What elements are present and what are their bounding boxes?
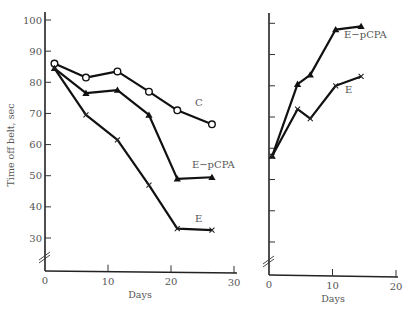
- series-label-e: E: [345, 84, 352, 95]
- series-label-epcpa: E−pCPA: [192, 159, 236, 170]
- y-tick-label: 90: [29, 46, 42, 57]
- data-point-c: [146, 88, 153, 95]
- x-tick-label: 10: [102, 276, 115, 287]
- data-point-c: [83, 74, 90, 81]
- y-axis-label: Time off belt, sec: [5, 104, 16, 187]
- data-point-c: [114, 68, 121, 75]
- x-axis: [269, 275, 398, 277]
- x-tick-label: 20: [390, 281, 403, 292]
- series-line-c: [54, 64, 212, 125]
- data-point-c: [209, 121, 216, 128]
- left-panel: 304050607080901000102030DaysTime off bel…: [5, 12, 240, 300]
- figure: 304050607080901000102030DaysTime off bel…: [0, 0, 409, 313]
- series-line-e: [54, 68, 212, 230]
- x-tick-label: 0: [266, 279, 272, 290]
- x-axis: [45, 271, 237, 273]
- y-tick-label: 40: [29, 201, 42, 212]
- series-label-epcpa: E−pCPA: [344, 29, 388, 40]
- x-tick-label: 20: [165, 276, 178, 287]
- x-tick-label: 0: [42, 275, 48, 286]
- right-panel: 01020DaysE−pCPAE: [263, 13, 402, 304]
- series-label-c: C: [195, 97, 203, 108]
- series-label-e: E: [195, 213, 202, 224]
- y-tick-label: 30: [29, 233, 42, 244]
- x-axis-label: Days: [321, 293, 345, 304]
- data-point-c: [174, 107, 181, 114]
- x-tick-label: 30: [228, 277, 241, 288]
- y-tick-label: 50: [29, 170, 42, 181]
- y-tick-label: 80: [29, 77, 42, 88]
- x-axis-label: Days: [128, 289, 152, 300]
- y-tick-label: 100: [23, 15, 42, 26]
- y-tick-label: 70: [29, 108, 42, 119]
- x-tick-label: 10: [326, 280, 339, 291]
- y-tick-label: 60: [29, 139, 42, 150]
